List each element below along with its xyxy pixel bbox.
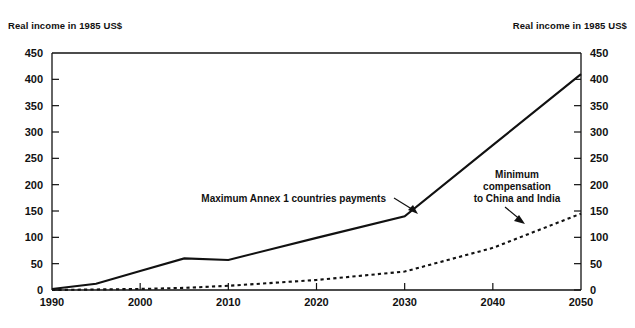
chart-annotations: Maximum Annex 1 countries paymentsMinimu… bbox=[201, 169, 560, 224]
y-tick-label-left: 0 bbox=[37, 284, 43, 296]
x-tick-label: 2050 bbox=[569, 296, 593, 308]
y-tick-label-right: 450 bbox=[590, 47, 608, 59]
x-tick-label: 1990 bbox=[40, 296, 64, 308]
x-tick-label: 2000 bbox=[128, 296, 152, 308]
chart-plot-area: 0050501001001501502002002502503003003503… bbox=[0, 0, 635, 328]
y-tick-label-left: 150 bbox=[25, 205, 43, 217]
y-tick-label-left: 100 bbox=[25, 231, 43, 243]
y-tick-label-right: 0 bbox=[590, 284, 596, 296]
y-tick-label-left: 250 bbox=[25, 152, 43, 164]
annotation-label-min-compensation: Minimum bbox=[495, 169, 539, 180]
x-tick-label: 2030 bbox=[392, 296, 416, 308]
y-tick-label-left: 50 bbox=[31, 258, 43, 270]
y-tick-label-right: 350 bbox=[590, 100, 608, 112]
y-tick-label-right: 300 bbox=[590, 126, 608, 138]
x-tick-label: 2040 bbox=[481, 296, 505, 308]
series-line-dashed bbox=[52, 214, 581, 290]
x-tick-label: 2010 bbox=[216, 296, 240, 308]
y-tick-label-right: 200 bbox=[590, 179, 608, 191]
annotation-label-min-compensation: to China and India bbox=[474, 193, 561, 204]
y-tick-label-left: 300 bbox=[25, 126, 43, 138]
x-tick-label: 2020 bbox=[304, 296, 328, 308]
chart-figure: Real income in 1985 US$ Real income in 1… bbox=[0, 0, 635, 328]
y-tick-label-right: 400 bbox=[590, 73, 608, 85]
y-tick-label-right: 250 bbox=[590, 152, 608, 164]
y-tick-label-right: 150 bbox=[590, 205, 608, 217]
y-tick-label-right: 100 bbox=[590, 231, 608, 243]
y-tick-label-left: 400 bbox=[25, 73, 43, 85]
annotation-label-max-annex1: Maximum Annex 1 countries payments bbox=[201, 193, 386, 204]
y-tick-label-right: 50 bbox=[590, 258, 602, 270]
annotation-label-min-compensation: compensation bbox=[483, 181, 551, 192]
y-tick-label-left: 200 bbox=[25, 179, 43, 191]
y-tick-label-left: 450 bbox=[25, 47, 43, 59]
y-tick-label-left: 350 bbox=[25, 100, 43, 112]
